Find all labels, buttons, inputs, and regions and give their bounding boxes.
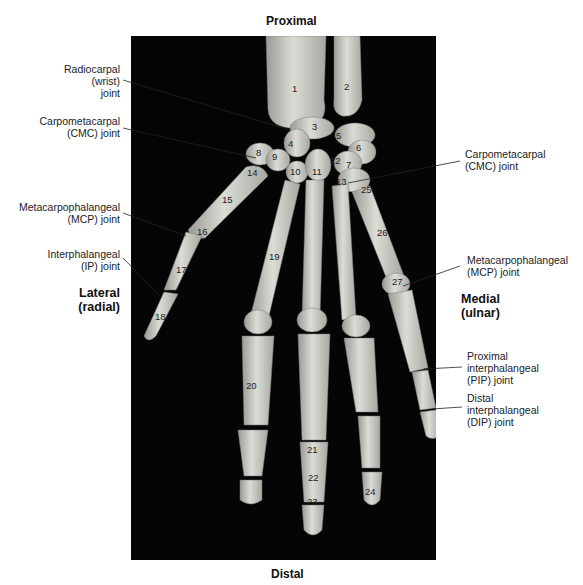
label-mcp-joint-right: Metacarpophalangeal(MCP) joint (467, 254, 568, 278)
label-medial-ulnar: Medial(ulnar) (461, 292, 500, 320)
label-cmc-joint-right: Carpometacarpal(CMC) joint (465, 148, 546, 172)
label-dip-joint: Distalinterphalangeal(DIP) joint (467, 392, 539, 428)
label-ip-joint: Interphalangeal(IP) joint (48, 248, 120, 272)
label-radiocarpal-joint: Radiocarpal(wrist)joint (64, 63, 120, 99)
label-mcp-joint-left: Metacarpophalangeal(MCP) joint (19, 201, 120, 225)
label-cmc-joint-left: Carpometacarpal(CMC) joint (39, 115, 120, 139)
label-lateral-radial: Lateral(radial) (78, 286, 120, 314)
label-pip-joint: Proximalinterphalangeal(PIP) joint (467, 350, 539, 386)
